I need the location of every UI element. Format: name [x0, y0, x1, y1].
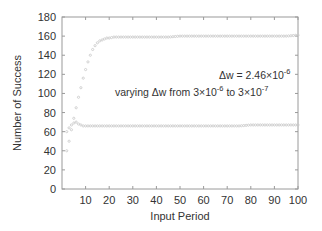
- x-axis-ticks: 102030405060708090100: [79, 17, 307, 206]
- data-point: [66, 150, 68, 152]
- data-point: [207, 125, 209, 127]
- x-axis-label: Input Period: [150, 210, 209, 222]
- y-tick-label: 140: [38, 49, 56, 61]
- data-point: [146, 125, 148, 127]
- data-point: [106, 37, 108, 39]
- data-point: [221, 125, 223, 127]
- data-point: [70, 129, 72, 131]
- data-point: [66, 131, 68, 133]
- data-point: [287, 124, 289, 126]
- data-point: [129, 125, 131, 127]
- data-point: [80, 87, 82, 89]
- data-point: [238, 125, 240, 127]
- data-point: [276, 124, 278, 126]
- data-point: [217, 35, 219, 37]
- data-point: [200, 35, 202, 37]
- series-1: [66, 121, 299, 133]
- y-tick-label: 40: [44, 145, 56, 157]
- data-point: [290, 35, 292, 37]
- data-point: [141, 125, 143, 127]
- data-point: [158, 125, 160, 127]
- data-point: [203, 35, 205, 37]
- data-point: [129, 36, 131, 38]
- data-point: [77, 96, 79, 98]
- data-point: [113, 36, 115, 38]
- data-point: [191, 35, 193, 37]
- data-point: [174, 35, 176, 37]
- data-point: [254, 124, 256, 126]
- data-point: [217, 125, 219, 127]
- data-point: [210, 125, 212, 127]
- data-point: [245, 35, 247, 37]
- annotation-varying-dw: varying Δw from 3×10-6 to 3×10-7: [115, 84, 268, 98]
- data-point: [198, 125, 200, 127]
- data-point: [115, 125, 117, 127]
- data-point: [162, 36, 164, 38]
- data-point: [233, 125, 235, 127]
- data-point: [118, 36, 120, 38]
- data-point: [177, 35, 179, 37]
- data-point: [247, 35, 249, 37]
- data-point: [110, 36, 112, 38]
- data-point: [172, 36, 174, 38]
- x-tick-label: 60: [197, 194, 209, 206]
- data-point: [120, 125, 122, 127]
- data-point: [155, 36, 157, 38]
- data-point: [195, 125, 197, 127]
- data-point: [243, 35, 245, 37]
- data-point: [259, 124, 261, 126]
- data-point: [257, 124, 259, 126]
- data-point: [139, 36, 141, 38]
- data-point: [280, 35, 282, 37]
- data-point: [236, 125, 238, 127]
- data-point: [278, 35, 280, 37]
- data-point: [87, 125, 89, 127]
- data-point: [224, 125, 226, 127]
- data-point: [271, 124, 273, 126]
- data-point: [285, 35, 287, 37]
- data-point: [80, 124, 82, 126]
- data-point: [148, 36, 150, 38]
- y-axis-label: Number of Success: [11, 55, 23, 151]
- data-point: [188, 35, 190, 37]
- data-point: [240, 125, 242, 127]
- data-point: [136, 125, 138, 127]
- x-tick-label: 50: [174, 194, 186, 206]
- data-point: [203, 125, 205, 127]
- data-point: [250, 35, 252, 37]
- data-point: [153, 125, 155, 127]
- data-point: [212, 125, 214, 127]
- data-point: [134, 36, 136, 38]
- data-point: [283, 124, 285, 126]
- data-point: [250, 124, 252, 126]
- data-point: [181, 35, 183, 37]
- annotation-fixed-dw: Δw = 2.46×10-6: [219, 67, 290, 81]
- data-point: [259, 35, 261, 37]
- data-point: [181, 125, 183, 127]
- data-point: [207, 35, 209, 37]
- data-point: [132, 125, 134, 127]
- data-point: [167, 36, 169, 38]
- data-point: [295, 34, 297, 36]
- data-point: [210, 35, 212, 37]
- data-point: [68, 140, 70, 142]
- data-point: [108, 37, 110, 39]
- data-point: [205, 35, 207, 37]
- data-point: [139, 125, 141, 127]
- data-point: [285, 124, 287, 126]
- data-point: [153, 36, 155, 38]
- data-point: [162, 125, 164, 127]
- data-point: [214, 125, 216, 127]
- data-point: [262, 124, 264, 126]
- x-tick-label: 40: [150, 194, 162, 206]
- data-point: [195, 35, 197, 37]
- data-point: [99, 125, 101, 127]
- data-point: [276, 35, 278, 37]
- data-point: [266, 124, 268, 126]
- data-point: [75, 121, 77, 123]
- data-point: [247, 124, 249, 126]
- data-point: [96, 125, 98, 127]
- data-point: [226, 35, 228, 37]
- data-point: [292, 34, 294, 36]
- data-point: [144, 125, 146, 127]
